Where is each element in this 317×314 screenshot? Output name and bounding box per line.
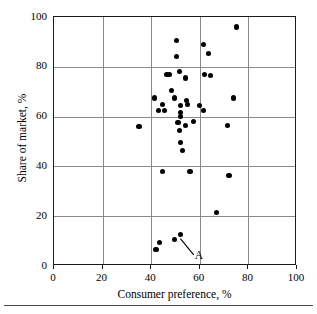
annotation-label-a: A <box>195 249 203 261</box>
data-point <box>162 108 167 113</box>
data-point <box>185 102 190 107</box>
x-tick-label-80: 80 <box>232 272 262 283</box>
gridline-horizontal-60 <box>54 117 295 118</box>
data-point <box>201 108 206 113</box>
data-point <box>183 123 188 128</box>
y-tick-label-0: 0 <box>17 260 47 271</box>
data-point <box>174 54 179 59</box>
x-tick-mark-60 <box>199 265 200 269</box>
data-point <box>178 103 183 108</box>
gridline-vertical-60 <box>200 17 201 264</box>
x-tick-mark-0 <box>53 265 54 269</box>
data-point <box>180 148 185 153</box>
x-tick-mark-80 <box>247 265 248 269</box>
y-tick-label-60: 60 <box>17 110 47 121</box>
data-point <box>178 232 183 237</box>
y-tick-label-80: 80 <box>17 60 47 71</box>
x-tick-label-100: 100 <box>281 272 311 283</box>
data-point <box>153 247 158 252</box>
data-point <box>201 42 206 47</box>
x-tick-label-0: 0 <box>38 272 68 283</box>
data-point <box>226 173 231 178</box>
x-tick-label-60: 60 <box>184 272 214 283</box>
x-axis-title: Consumer preference, % <box>53 288 296 300</box>
data-point <box>231 95 236 100</box>
data-point <box>234 24 239 29</box>
data-point <box>172 237 177 242</box>
y-axis-title: Share of market, % <box>16 58 28 218</box>
x-tick-label-40: 40 <box>135 272 165 283</box>
data-point <box>178 140 183 145</box>
data-point <box>157 240 162 245</box>
data-point <box>156 108 161 113</box>
data-point <box>177 128 182 133</box>
y-tick-label-40: 40 <box>17 160 47 171</box>
gridline-vertical-20 <box>103 17 104 264</box>
data-point <box>177 69 182 74</box>
data-point <box>160 169 165 174</box>
y-tick-label-20: 20 <box>17 210 47 221</box>
data-point <box>202 72 207 77</box>
data-point <box>183 75 188 80</box>
data-point <box>187 169 192 174</box>
gridline-horizontal-40 <box>54 166 295 167</box>
annotation-leader-line <box>180 239 193 255</box>
plot-area: A <box>53 16 296 265</box>
gridline-vertical-40 <box>151 17 152 264</box>
data-point <box>160 102 165 107</box>
gridline-horizontal-20 <box>54 216 295 217</box>
data-point <box>208 73 213 78</box>
data-point <box>174 38 179 43</box>
x-tick-mark-100 <box>296 265 297 269</box>
y-tick-label-100: 100 <box>17 11 47 22</box>
bottom-divider-rule <box>4 305 313 306</box>
scatter-plot-figure: Share of market, % Consumer preference, … <box>0 0 317 314</box>
data-point <box>206 51 211 56</box>
gridline-horizontal-80 <box>54 67 295 68</box>
data-point <box>175 120 180 125</box>
x-tick-mark-40 <box>150 265 151 269</box>
data-point <box>169 88 174 93</box>
data-point <box>178 114 183 119</box>
x-tick-label-20: 20 <box>87 272 117 283</box>
data-point <box>167 72 172 77</box>
data-point <box>152 95 157 100</box>
gridline-vertical-80 <box>248 17 249 264</box>
data-point <box>191 119 196 124</box>
data-point <box>136 124 141 129</box>
data-point <box>172 95 177 100</box>
data-point <box>225 123 230 128</box>
x-tick-mark-20 <box>102 265 103 269</box>
data-point <box>214 210 219 215</box>
